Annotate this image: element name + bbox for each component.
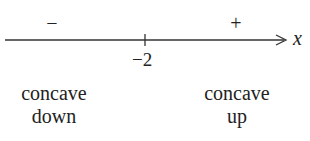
region-left-label: concave down <box>4 82 104 128</box>
region-right-line1: concave <box>187 82 287 105</box>
sign-negative: − <box>37 13 67 33</box>
region-right-label: concave up <box>187 82 287 128</box>
axis-label-x: x <box>293 28 302 48</box>
region-left-line1: concave <box>4 82 104 105</box>
critical-point-label: −2 <box>132 50 152 70</box>
region-left-line2: down <box>4 105 104 128</box>
region-right-line2: up <box>187 105 287 128</box>
sign-positive: + <box>221 13 251 33</box>
